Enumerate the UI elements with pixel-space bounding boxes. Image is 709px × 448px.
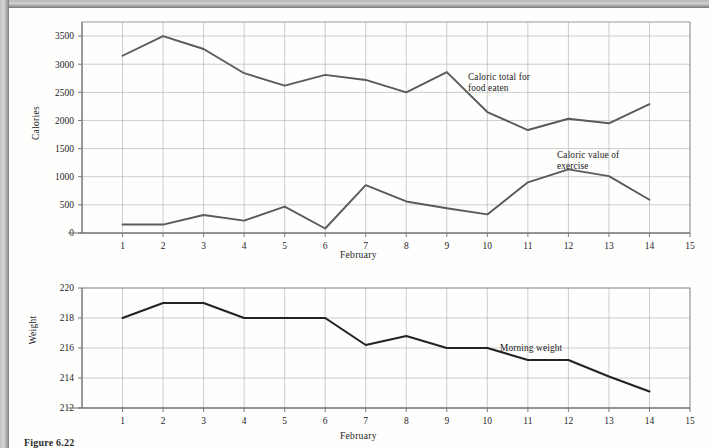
x-tick-label: 15 [685,241,695,251]
figure-page: Calories 0500100015002000250030003500123… [0,0,709,448]
x-tick-label: 8 [404,416,409,426]
x-tick-label: 12 [564,241,574,251]
calories-plot: 0500100015002000250030003500123456789101… [0,0,709,265]
calories-y-axis-title: Calories [31,93,41,153]
data-line-0 [123,36,650,130]
y-tick-label: 214 [60,373,75,383]
y-tick-label: 3000 [55,60,74,70]
x-tick-label: 5 [282,416,287,426]
x-tick-label: 10 [483,416,493,426]
y-tick-label: 500 [60,200,75,210]
weight-x-axis-title: February [340,431,377,441]
weight-morning-annotation: Morning weight [500,343,562,354]
y-tick-label: 2500 [55,88,74,98]
x-tick-label: 9 [444,416,449,426]
x-tick-label: 11 [523,416,532,426]
x-tick-label: 10 [483,241,493,251]
x-tick-label: 15 [685,416,695,426]
x-tick-label: 6 [323,416,328,426]
x-tick-label: 2 [161,241,166,251]
weight-y-axis-title: Weight [28,300,38,360]
x-tick-label: 3 [201,241,206,251]
data-line-1 [123,169,650,228]
y-tick-label: 2000 [55,116,74,126]
calories-food-annotation: Caloric total for food eaten [468,72,530,93]
x-tick-label: 12 [564,416,574,426]
x-tick-label: 3 [201,416,206,426]
x-tick-label: 13 [604,416,614,426]
figure-caption: Figure 6.22 [24,437,74,448]
x-tick-label: 4 [242,241,247,251]
x-tick-label: 14 [645,416,655,426]
y-tick-label: 220 [60,283,75,293]
x-tick-label: 1 [120,241,125,251]
y-tick-label: 218 [60,313,75,323]
x-tick-label: 6 [323,241,328,251]
x-tick-label: 9 [444,241,449,251]
x-tick-label: 5 [282,241,287,251]
x-tick-label: 2 [161,416,166,426]
weight-chart: Weight 212214216218220123456789101112131… [0,265,709,448]
x-tick-label: 13 [604,241,614,251]
calories-x-axis-title: February [340,250,377,260]
calories-exercise-annotation: Caloric value of exercise [557,150,619,171]
y-tick-label: 3500 [55,31,74,41]
x-tick-label: 1 [120,416,125,426]
calories-chart: Calories 0500100015002000250030003500123… [0,0,709,265]
y-tick-label: 216 [60,343,75,353]
x-tick-label: 7 [363,416,368,426]
x-tick-label: 4 [242,416,247,426]
x-tick-label: 11 [523,241,532,251]
y-tick-label: 1000 [55,172,74,182]
weight-plot: 212214216218220123456789101112131415 [0,265,709,448]
y-tick-label: 1500 [55,144,74,154]
x-tick-label: 14 [645,241,655,251]
x-tick-label: 8 [404,241,409,251]
